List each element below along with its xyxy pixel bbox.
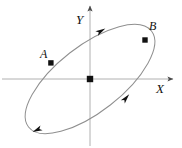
direction-arrow-upper-left	[95, 26, 106, 36]
geometry-diagram: X Y A B	[0, 0, 182, 148]
point-a-label: A	[39, 47, 48, 61]
origin-marker	[87, 76, 93, 82]
point-b-label: B	[149, 19, 157, 33]
x-axis-label: X	[155, 81, 165, 96]
point-a-marker	[48, 60, 53, 65]
point-b-marker	[142, 37, 147, 42]
figure-container: X Y A B	[0, 0, 182, 148]
arrowhead-icon	[95, 26, 106, 36]
origin-point	[87, 76, 93, 82]
y-axis-label: Y	[76, 12, 85, 27]
point-a: A	[39, 47, 54, 66]
